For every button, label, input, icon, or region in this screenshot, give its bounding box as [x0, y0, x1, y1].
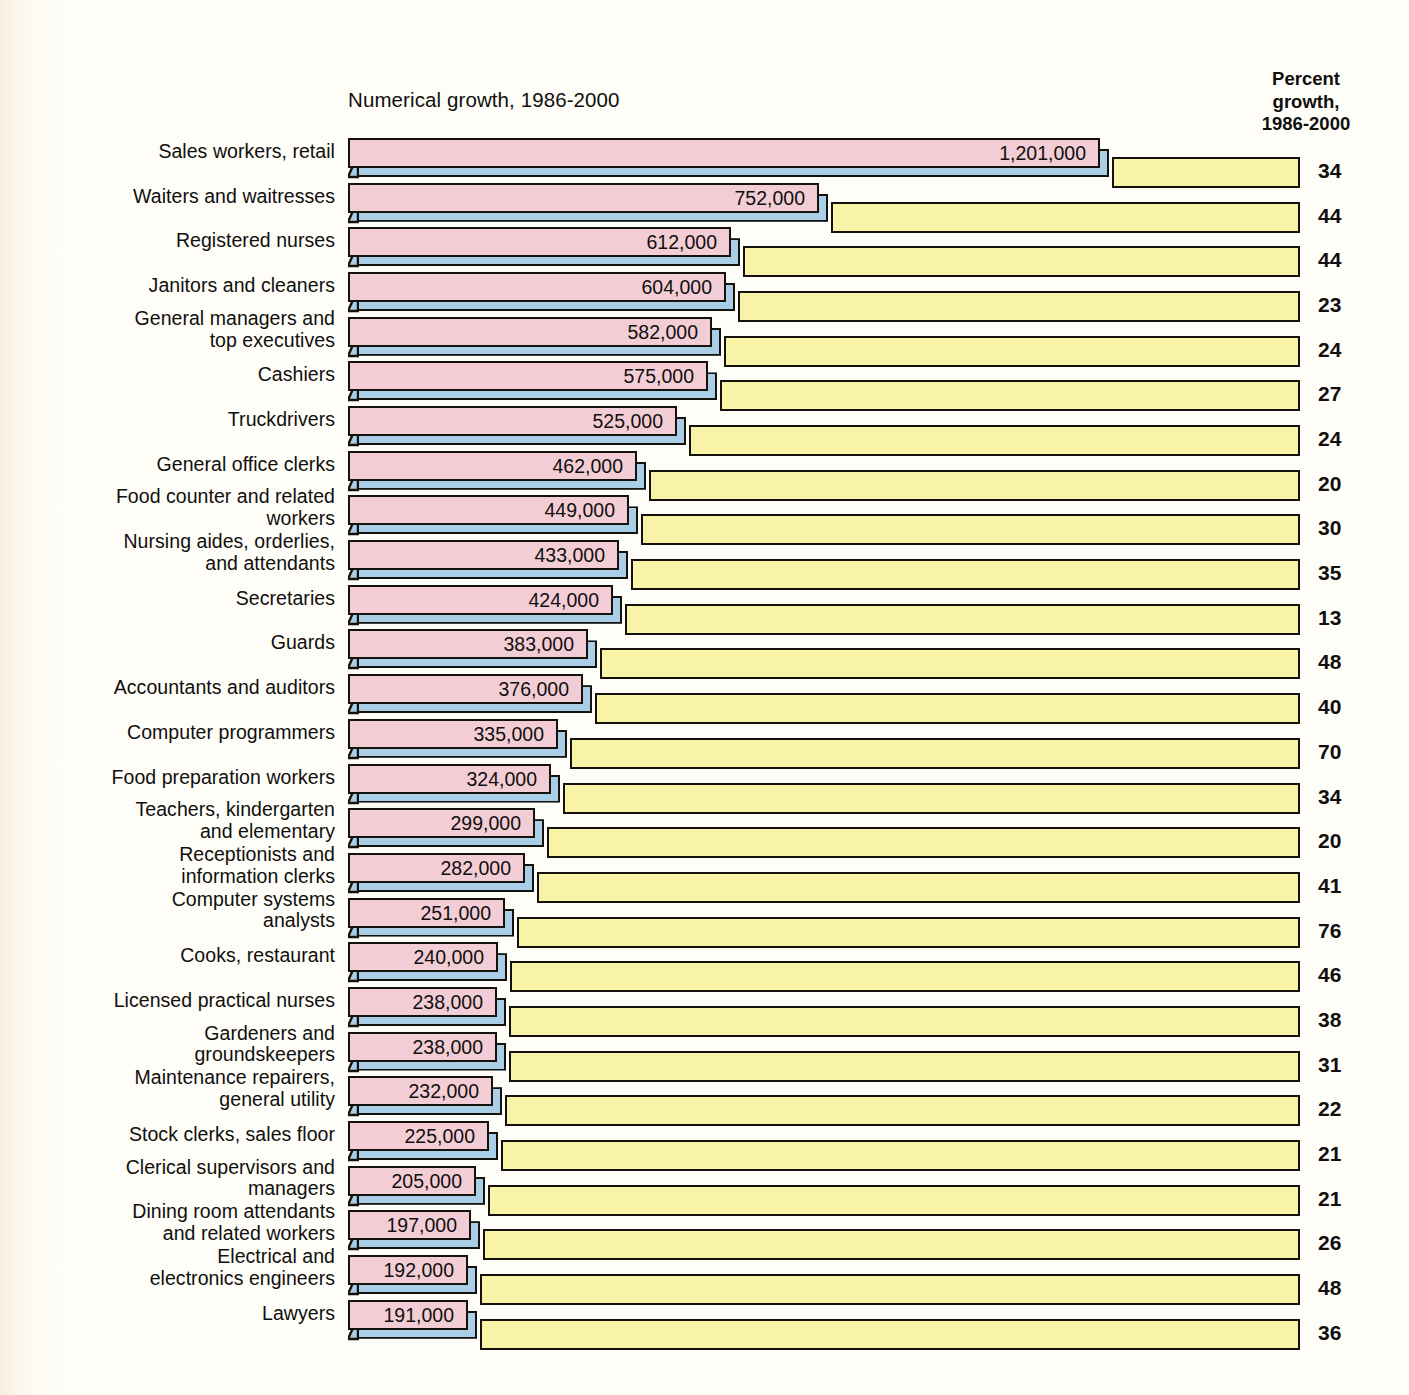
category-label-line: Licensed practical nurses [35, 990, 335, 1012]
numerical-value-label: 251,000 [421, 902, 492, 925]
numerical-value-label: 205,000 [392, 1170, 463, 1193]
numerical-value-label: 225,000 [405, 1125, 476, 1148]
numerical-growth-bar: 376,000 [348, 674, 595, 716]
bar-front-face: 192,000 [348, 1255, 468, 1285]
numerical-growth-bar: 525,000 [348, 406, 689, 448]
numerical-growth-bar: 383,000 [348, 629, 600, 671]
category-label-line: Computer systems [35, 889, 335, 911]
category-label: Electrical andelectronics engineers [35, 1246, 335, 1290]
bar-front-face: 282,000 [348, 853, 525, 883]
category-label: Cashiers [35, 364, 335, 386]
numerical-value-label: 232,000 [409, 1080, 480, 1103]
chart-row: Computer systemsanalysts76251,000 [0, 892, 1409, 938]
numerical-value-label: 191,000 [384, 1304, 455, 1327]
numerical-value-label: 424,000 [529, 589, 600, 612]
category-label-line: Food preparation workers [35, 767, 335, 789]
bar-front-face: 604,000 [348, 272, 726, 302]
numerical-value-label: 197,000 [387, 1214, 458, 1237]
numerical-value-label: 192,000 [384, 1259, 455, 1282]
numerical-growth-bar: 604,000 [348, 272, 738, 314]
category-label: Stock clerks, sales floor [35, 1124, 335, 1146]
category-label-line: Registered nurses [35, 230, 335, 252]
category-label: Maintenance repairers,general utility [35, 1067, 335, 1111]
numerical-growth-bar: 433,000 [348, 540, 631, 582]
chart-row: Licensed practical nurses38238,000 [0, 981, 1409, 1027]
chart-row: Cooks, restaurant46240,000 [0, 936, 1409, 982]
numerical-growth-bar: 282,000 [348, 853, 537, 895]
numerical-growth-bar: 191,000 [348, 1300, 480, 1342]
bar-front-face: 449,000 [348, 495, 629, 525]
numerical-growth-bar: 238,000 [348, 1032, 509, 1074]
category-label-line: managers [35, 1178, 335, 1200]
chart-row: Janitors and cleaners23604,000 [0, 266, 1409, 312]
chart-row: General managers andtop executives24582,… [0, 311, 1409, 357]
numerical-growth-bar: 462,000 [348, 451, 649, 493]
bar-front-face: 251,000 [348, 898, 505, 928]
category-label: Licensed practical nurses [35, 990, 335, 1012]
numerical-value-label: 612,000 [647, 231, 718, 254]
chart-row: Accountants and auditors40376,000 [0, 668, 1409, 714]
bar-front-face: 1,201,000 [348, 138, 1100, 168]
chart-row: Receptionists andinformation clerks41282… [0, 847, 1409, 893]
category-label-line: Dining room attendants [35, 1201, 335, 1223]
numerical-growth-bar: 225,000 [348, 1121, 501, 1163]
numerical-growth-bar: 197,000 [348, 1210, 483, 1252]
bar-front-face: 575,000 [348, 361, 708, 391]
chart-row: Food counter and relatedworkers30449,000 [0, 489, 1409, 535]
chart-row: Guards48383,000 [0, 623, 1409, 669]
numerical-value-label: 462,000 [553, 455, 624, 478]
numerical-growth-bar: 251,000 [348, 898, 517, 940]
category-label: Cooks, restaurant [35, 945, 335, 967]
dual-bar-chart: Numerical growth, 1986-2000 Percent grow… [0, 0, 1409, 1395]
chart-row: Secretaries13424,000 [0, 579, 1409, 625]
bar-front-face: 225,000 [348, 1121, 489, 1151]
numerical-value-label: 335,000 [474, 723, 545, 746]
category-label-line: information clerks [35, 866, 335, 888]
category-label: Computer programmers [35, 722, 335, 744]
numerical-growth-bar: 612,000 [348, 227, 743, 269]
bar-front-face: 324,000 [348, 764, 551, 794]
category-label-line: top executives [35, 330, 335, 352]
chart-row: Lawyers36191,000 [0, 1294, 1409, 1340]
category-label-line: and related workers [35, 1223, 335, 1245]
numerical-value-label: 376,000 [499, 678, 570, 701]
chart-row: Food preparation workers34324,000 [0, 758, 1409, 804]
bar-front-face: 238,000 [348, 1032, 497, 1062]
category-label-line: Maintenance repairers, [35, 1067, 335, 1089]
chart-title-percent-growth: Percent growth, 1986-2000 [1246, 68, 1366, 136]
numerical-growth-bar: 752,000 [348, 183, 831, 225]
category-label-line: groundskeepers [35, 1044, 335, 1066]
numerical-value-label: 383,000 [504, 633, 575, 656]
category-label: Registered nurses [35, 230, 335, 252]
numerical-growth-bar: 575,000 [348, 361, 720, 403]
category-label-line: Accountants and auditors [35, 677, 335, 699]
category-label-line: Cashiers [35, 364, 335, 386]
category-label: Secretaries [35, 588, 335, 610]
numerical-value-label: 240,000 [414, 946, 485, 969]
category-label: Waiters and waitresses [35, 186, 335, 208]
percent-value-label: 36 [1318, 1321, 1341, 1345]
numerical-value-label: 282,000 [441, 857, 512, 880]
category-label-line: Teachers, kindergarten [35, 799, 335, 821]
bar-front-face: 424,000 [348, 585, 613, 615]
numerical-growth-bar: 324,000 [348, 764, 563, 806]
numerical-value-label: 1,201,000 [999, 142, 1086, 165]
category-label-line: Electrical and [35, 1246, 335, 1268]
chart-row: Clerical supervisors andmanagers21205,00… [0, 1160, 1409, 1206]
numerical-growth-bar: 1,201,000 [348, 138, 1112, 180]
bar-front-face: 205,000 [348, 1166, 476, 1196]
category-label: Guards [35, 632, 335, 654]
numerical-value-label: 433,000 [535, 544, 606, 567]
bar-front-face: 433,000 [348, 540, 619, 570]
category-label-line: Clerical supervisors and [35, 1157, 335, 1179]
chart-row: Nursing aides, orderlies,and attendants3… [0, 534, 1409, 580]
numerical-growth-bar: 449,000 [348, 495, 641, 537]
category-label-line: workers [35, 508, 335, 530]
chart-row: Maintenance repairers,general utility222… [0, 1070, 1409, 1116]
category-label-line: Gardeners and [35, 1023, 335, 1045]
chart-row: Electrical andelectronics engineers48192… [0, 1249, 1409, 1295]
bar-front-face: 238,000 [348, 987, 497, 1017]
numerical-growth-bar: 238,000 [348, 987, 509, 1029]
category-label: Janitors and cleaners [35, 275, 335, 297]
category-label: Teachers, kindergartenand elementary [35, 799, 335, 843]
